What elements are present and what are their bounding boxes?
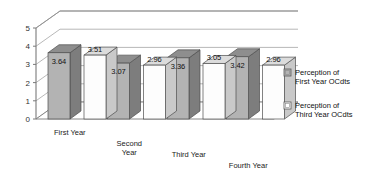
y-axis-tick-label: 3 (26, 60, 31, 69)
legend-label-1: Perception of (295, 101, 340, 110)
bar-front-face (84, 55, 106, 119)
bar-side-face (189, 50, 200, 119)
category-label-2: Third Year (172, 150, 207, 159)
data-label-gray-2: 3.36 (171, 62, 186, 71)
legend-label-1-line2: Third Year OCdts (295, 110, 353, 119)
bar-front-face (144, 65, 166, 119)
category-label-1: Second (117, 139, 142, 148)
bar-side-face (285, 57, 296, 119)
bar-side-face (106, 47, 117, 119)
data-label-gray-1: 3.07 (111, 67, 126, 76)
y-axis-tick-label: 0 (26, 115, 31, 124)
legend-label-0-line2: First Year OCdts (295, 77, 350, 86)
data-label-white-2: 3.05 (207, 53, 222, 62)
category-label-0: First Year (54, 128, 86, 137)
y-axis-tick-label: 1 (26, 97, 31, 106)
category-label-1-line2: Year (122, 148, 138, 157)
bar-white-3 (263, 57, 296, 119)
data-label-white-0: 3.51 (88, 45, 103, 54)
data-label-gray-0: 3.64 (52, 57, 67, 66)
y-axis-tick-label: 5 (26, 24, 31, 33)
category-label-3: Fourth Year (229, 161, 268, 170)
y-axis-tick-label: 2 (26, 79, 31, 88)
y-axis-tick-label: 4 (26, 42, 31, 51)
bar-front-face (263, 65, 285, 119)
bar-white-0 (84, 47, 117, 119)
data-label-gray-3: 3.42 (230, 61, 245, 70)
legend-label-0: Perception of (295, 68, 340, 77)
data-label-white-3: 2.96 (266, 55, 281, 64)
legend-swatch-0 (284, 69, 291, 76)
bar-side-face (70, 45, 81, 119)
bar-side-face (249, 49, 260, 119)
bar-chart-3d: 5432103.643.513.072.963.363.053.422.96Fi… (0, 0, 367, 185)
bar-front-face (203, 63, 225, 119)
chart-container: 5432103.643.513.072.963.363.053.422.96Fi… (0, 0, 367, 185)
bar-side-face (130, 55, 141, 119)
legend-swatch-1 (284, 102, 291, 109)
data-label-white-1: 2.96 (147, 55, 162, 64)
